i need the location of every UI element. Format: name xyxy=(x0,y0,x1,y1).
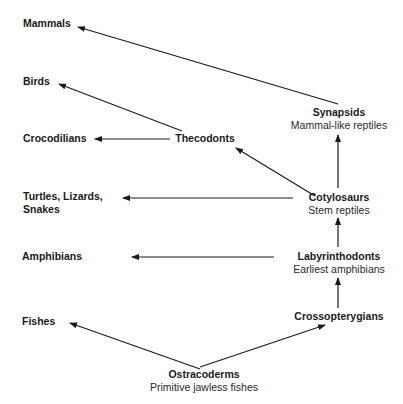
node-synapsids-sublabel: Mammal-like reptiles xyxy=(291,119,387,132)
node-synapsids-label: Synapsids xyxy=(291,106,387,119)
node-thecodonts: Thecodonts xyxy=(175,132,235,145)
node-labyrinthodonts-label: Labyrinthodonts xyxy=(293,250,385,263)
node-mammals: Mammals xyxy=(23,17,71,30)
node-fishes: Fishes xyxy=(22,315,55,328)
node-crocodilians-label: Crocodilians xyxy=(23,132,87,145)
node-crocodilians: Crocodilians xyxy=(23,132,87,145)
node-ostracoderms-label: Ostracoderms xyxy=(150,368,258,381)
node-birds: Birds xyxy=(23,75,50,88)
edge-ostracoderms-fishes xyxy=(70,323,200,369)
node-crossopterygians-label: Crossopterygians xyxy=(294,310,383,323)
node-amphibians: Amphibians xyxy=(22,250,82,263)
node-turtles-lizards-snakes: Turtles, Lizards, Snakes xyxy=(23,190,103,216)
node-labyrinthodonts-sublabel: Earliest amphibians xyxy=(293,263,385,276)
node-amphibians-label: Amphibians xyxy=(22,250,82,263)
node-mammals-label: Mammals xyxy=(23,17,71,30)
edge-synapsids-mammals xyxy=(78,27,338,104)
node-fishes-label: Fishes xyxy=(22,315,55,328)
node-cotylosaurs-sublabel: Stem reptiles xyxy=(308,204,369,217)
node-cotylosaurs-label: Cotylosaurs xyxy=(308,191,369,204)
node-ostracoderms: Ostracoderms Primitive jawless fishes xyxy=(150,368,258,394)
edge-thecodonts-birds xyxy=(59,84,182,131)
node-ostracoderms-sublabel: Primitive jawless fishes xyxy=(150,381,258,394)
node-birds-label: Birds xyxy=(23,75,50,88)
node-synapsids: Synapsids Mammal-like reptiles xyxy=(291,106,387,132)
node-thecodonts-label: Thecodonts xyxy=(175,132,235,145)
node-labyrinthodonts: Labyrinthodonts Earliest amphibians xyxy=(293,250,385,276)
edge-cotylosaurs-thecodonts xyxy=(236,148,315,196)
node-crossopterygians: Crossopterygians xyxy=(294,310,383,323)
node-turtles-label-line1: Turtles, Lizards, xyxy=(23,190,103,203)
edge-ostracoderms-crossopterygians xyxy=(200,325,325,367)
node-cotylosaurs: Cotylosaurs Stem reptiles xyxy=(308,191,369,217)
node-turtles-label-line2: Snakes xyxy=(23,203,103,216)
